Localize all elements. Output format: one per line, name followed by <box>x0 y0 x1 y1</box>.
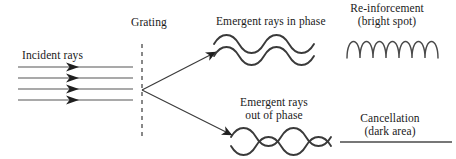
label-line-1: Emergent rays <box>232 96 316 109</box>
label-line-2: out of phase <box>232 109 316 122</box>
label-line-1: Cancellation <box>340 112 440 125</box>
label-emergent-rays-out-of-phase: Emergent rays out of phase <box>232 96 316 122</box>
label-grating: Grating <box>131 16 167 29</box>
diffraction-grating-diagram: Incident rays Grating Emergent rays in p… <box>0 0 456 159</box>
incident-rays-arrowheads <box>66 62 79 104</box>
label-line-1: Re-inforcement <box>332 2 442 15</box>
wave-in-phase-upper <box>214 35 314 53</box>
label-incident-rays: Incident rays <box>22 49 83 62</box>
wave-in-phase-lower <box>214 47 314 65</box>
out-of-phase-wave-pair <box>231 128 331 155</box>
label-emergent-rays-in-phase: Emergent rays in phase <box>216 15 326 28</box>
label-reinforcement: Re-inforcement (bright spot) <box>332 2 442 28</box>
lower-emergent-ray-arrow <box>142 90 232 135</box>
label-line-2: (bright spot) <box>332 15 442 28</box>
label-cancellation: Cancellation (dark area) <box>340 112 440 138</box>
label-line-2: (dark area) <box>340 125 440 138</box>
incident-rays-group <box>18 67 133 100</box>
reinforcement-square-wave <box>347 42 438 59</box>
in-phase-wave-pair <box>214 35 314 65</box>
upper-emergent-ray-arrow <box>142 52 216 90</box>
